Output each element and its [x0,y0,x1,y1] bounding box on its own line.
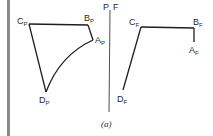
divider-label-p: P [103,3,109,12]
diagram-figure: CP BP AP DP P F CF BF AF DF (a) [0,0,213,136]
edge-dp-cp [29,24,46,92]
edge-ap-dp-curve [46,40,93,92]
panel-p-shape [29,24,93,92]
label-ap: AP [95,36,105,46]
edge-cf-df [123,27,141,90]
diagram-lines [0,0,213,136]
label-cf: CF [129,18,139,28]
label-bp: BP [84,14,94,24]
edge-bp-ap [88,25,93,40]
label-df: DF [117,95,127,105]
edge-cf-bf [141,27,194,28]
label-bf: BF [193,18,203,28]
edge-cp-bp [29,24,88,25]
figure-caption: (a) [101,119,112,129]
label-af: AF [189,46,199,56]
panel-f-shape [123,27,194,90]
divider-label-f: F [113,3,119,12]
label-cp: CP [17,17,28,27]
pf-divider-line [109,10,110,112]
label-dp: DP [39,96,50,106]
